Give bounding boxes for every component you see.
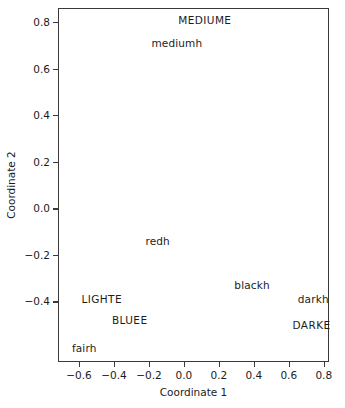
y-axis-tick-label: −0.4 [8, 295, 50, 307]
y-axis-tick-mark [53, 69, 58, 70]
x-axis-tick-label: 0.8 [315, 369, 332, 381]
x-axis-tick-label: −0.6 [66, 369, 92, 381]
data-point-label: darkh [298, 294, 329, 305]
scatter-plot-figure: MEDIUMEmediumhredhblackhdarkhDARKELIGHTE… [0, 0, 345, 408]
x-axis-tick-label: 0.6 [280, 369, 297, 381]
x-axis-tick-mark [184, 362, 185, 367]
data-point-label: LIGHTE [81, 294, 121, 305]
y-axis-tick-label: 0.4 [8, 109, 50, 121]
x-axis-tick-mark [114, 362, 115, 367]
data-point-label: BLUEE [112, 315, 147, 326]
y-axis-tick-label: 0.6 [8, 63, 50, 75]
y-axis-tick-label: 0.8 [8, 16, 50, 28]
y-axis-tick-mark [53, 115, 58, 116]
x-axis-tick-label: −0.2 [136, 369, 162, 381]
x-axis-tick-mark [79, 362, 80, 367]
x-axis-tick-mark [219, 362, 220, 367]
x-axis-tick-mark [149, 362, 150, 367]
data-point-label: redh [145, 236, 169, 247]
data-point-label: fairh [72, 343, 97, 354]
y-axis-tick-mark [53, 301, 58, 302]
data-point-label: blackh [234, 280, 269, 291]
x-axis-tick-label: 0.4 [245, 369, 262, 381]
x-axis-tick-mark [324, 362, 325, 367]
y-axis-tick-mark [53, 255, 58, 256]
data-point-label: mediumh [151, 38, 202, 49]
x-axis-title: Coordinate 1 [58, 386, 329, 398]
x-axis-tick-mark [254, 362, 255, 367]
data-point-label: MEDIUME [178, 14, 231, 25]
y-axis-title: Coordinate 2 [5, 151, 17, 219]
data-point-label: DARKE [293, 319, 331, 330]
x-axis-tick-label: 0.2 [210, 369, 227, 381]
plot-frame [58, 8, 329, 362]
y-axis-tick-label: −0.2 [8, 249, 50, 261]
y-axis-tick-mark [53, 162, 58, 163]
y-axis-tick-mark [53, 208, 58, 209]
x-axis-tick-label: −0.4 [101, 369, 127, 381]
x-axis-tick-label: 0.0 [176, 369, 193, 381]
x-axis-tick-mark [289, 362, 290, 367]
y-axis-tick-mark [53, 22, 58, 23]
